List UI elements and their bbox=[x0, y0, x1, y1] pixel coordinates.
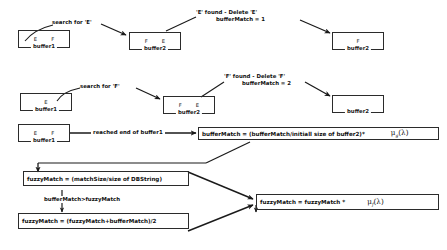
formula-text: fuzzyMatch = (matchSize/size of DBString… bbox=[27, 176, 162, 182]
buffer-caption: buffer2 bbox=[142, 45, 168, 51]
row4-arrow-init-to-final bbox=[188, 172, 253, 199]
row2-line-buffer2-to-found bbox=[201, 82, 224, 97]
edge-label-row2-search: search for 'F' bbox=[80, 83, 120, 90]
diagram-canvas: E F buffer1 search for 'E' F E buffer2 '… bbox=[0, 0, 447, 250]
formula-text: fuzzyMatch = (fuzzyMatch+bufferMatch)/2 bbox=[22, 218, 156, 224]
buffer-box-row1-buffer2-before: F E buffer2 bbox=[129, 32, 181, 50]
buffer-cell: E bbox=[162, 38, 165, 44]
row4-arrow-avg-to-final bbox=[188, 205, 253, 231]
mu-symbol-g: μg(λ) bbox=[391, 128, 409, 138]
buffer-cell: F bbox=[179, 102, 182, 108]
edge-label-row3-reached: reached end of buffer1 bbox=[91, 129, 165, 136]
buffer-cell: F bbox=[51, 36, 54, 42]
buffer-caption: buffer2 bbox=[176, 109, 202, 115]
buffer-caption: buffer2 bbox=[345, 108, 371, 114]
formula-text: fuzzyMatch = fuzzyMatch * bbox=[260, 199, 345, 205]
buffer-caption: buffer1 bbox=[33, 106, 59, 112]
row1-line-buffer2-to-found bbox=[166, 17, 196, 31]
buffer-box-row3-buffer1: E F buffer1 bbox=[18, 124, 70, 142]
edge-label-row1-found-line2: bufferMatch = 1 bbox=[216, 16, 265, 23]
row2-arrow-search-to-buffer2 bbox=[136, 88, 160, 99]
mu-symbol-f: μf(λ) bbox=[367, 197, 383, 207]
formula-text: bufferMatch = (bufferMatch/initiall size… bbox=[202, 131, 365, 137]
edge-label-row2-found-line2: bufferMatch = 2 bbox=[242, 80, 291, 87]
buffer-caption: buffer1 bbox=[31, 43, 57, 49]
buffer-caption: buffer1 bbox=[31, 137, 57, 143]
edge-label-condition-buffer-gt-fuzzy: bufferMatch>fuzzyMatch bbox=[42, 196, 122, 203]
row3-line-formula-down bbox=[206, 142, 250, 163]
buffer-cell: F bbox=[356, 38, 359, 44]
buffer-box-row1-buffer2-after: F buffer2 bbox=[332, 32, 384, 50]
buffer-cell: F bbox=[145, 38, 148, 44]
buffer-cell: F bbox=[51, 130, 54, 136]
buffer-cell: E bbox=[44, 99, 47, 105]
formula-box-buffermatch: bufferMatch = (bufferMatch/initiall size… bbox=[198, 127, 439, 140]
row1-arrow-found-to-buffer2after bbox=[300, 20, 330, 33]
buffer-box-row2-buffer2-after: buffer2 bbox=[332, 95, 384, 113]
row1-arrow-search-to-buffer2 bbox=[101, 24, 126, 35]
buffer-box-row2-buffer2-before: F E buffer2 bbox=[163, 96, 215, 114]
edge-label-row2-found-line1: 'F' found - Delete 'F' bbox=[224, 73, 285, 80]
row2-arrow-found-to-buffer2after bbox=[305, 82, 330, 96]
edge-label-row1-found-line1: 'E' found - Delete 'E' bbox=[196, 9, 257, 16]
formula-box-fuzzymatch-avg: fuzzyMatch = (fuzzyMatch+bufferMatch)/2 bbox=[18, 213, 189, 229]
formula-box-fuzzymatch-init: fuzzyMatch = (matchSize/size of DBString… bbox=[23, 171, 189, 186]
buffer-cell: E bbox=[34, 130, 37, 136]
buffer-box-row2-buffer1: E buffer1 bbox=[20, 93, 72, 111]
buffer-caption: buffer2 bbox=[345, 45, 371, 51]
buffer-cell: E bbox=[196, 102, 199, 108]
formula-box-fuzzymatch-final: fuzzyMatch = fuzzyMatch * μf(λ) bbox=[256, 194, 439, 210]
buffer-box-row1-buffer1: E F buffer1 bbox=[18, 30, 70, 48]
buffer-cell: E bbox=[34, 36, 37, 42]
edge-label-row1-search: search for 'E' bbox=[52, 19, 92, 26]
